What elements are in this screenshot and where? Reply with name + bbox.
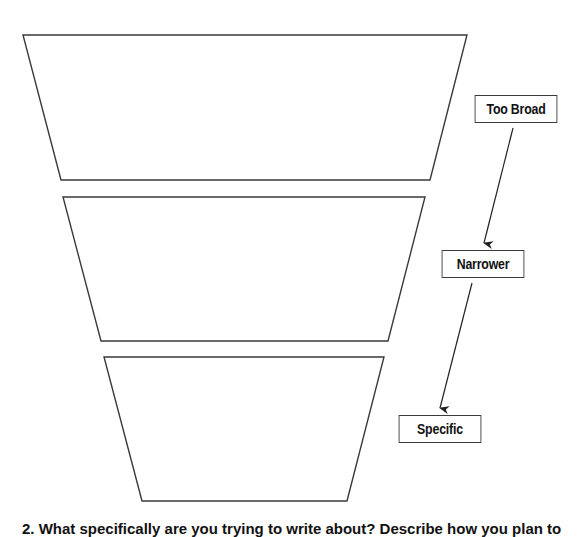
label-too-broad: Too Broad xyxy=(475,95,558,123)
funnel-level-top xyxy=(23,35,467,180)
label-too-broad-text: Too Broad xyxy=(486,101,545,117)
label-narrower: Narrower xyxy=(442,250,525,278)
arrow-too-broad-to-narrower xyxy=(484,128,513,243)
label-specific-text: Specific xyxy=(417,421,463,437)
funnel-level-bottom xyxy=(104,357,384,501)
label-specific: Specific xyxy=(399,415,482,443)
question-text: 2. What specifically are you trying to w… xyxy=(22,520,561,537)
label-narrower-text: Narrower xyxy=(457,256,510,272)
funnel-level-middle xyxy=(63,197,425,341)
arrow-narrower-to-specific xyxy=(440,283,472,408)
